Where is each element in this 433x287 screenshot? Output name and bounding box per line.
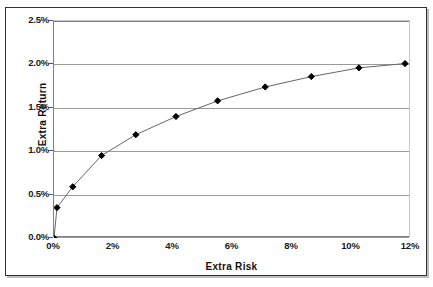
data-point-marker: [356, 65, 362, 71]
y-tick-mark: [49, 107, 53, 108]
y-axis-title: Extra Return: [37, 35, 48, 195]
data-point-marker: [308, 73, 314, 79]
y-tick-label: 2.5%: [3, 14, 49, 25]
plot-area: [53, 20, 410, 237]
data-point-marker: [133, 132, 139, 138]
y-tick-mark: [49, 20, 53, 21]
data-point-marker: [173, 113, 179, 119]
y-axis-title-wrapper: Extra Return: [22, 0, 23, 287]
series-line: [54, 64, 405, 239]
x-axis-title: Extra Risk: [53, 261, 410, 272]
chart-body: 0.0%0.5%1.0%1.5%2.0%2.5% Extra Return 0%…: [0, 0, 433, 287]
data-series-svg: [54, 21, 411, 238]
y-tick-mark: [49, 237, 53, 238]
x-tick-label: 2%: [93, 240, 133, 251]
x-tick-label: 6%: [212, 240, 252, 251]
x-tick-label: 8%: [271, 240, 311, 251]
x-tick-label: 12%: [390, 240, 430, 251]
y-tick-mark: [49, 63, 53, 64]
x-tick-label: 4%: [152, 240, 192, 251]
data-point-marker: [54, 235, 57, 238]
data-point-marker: [215, 98, 221, 104]
chart-figure: 0.0%0.5%1.0%1.5%2.0%2.5% Extra Return 0%…: [0, 0, 433, 287]
y-tick-mark: [49, 194, 53, 195]
data-point-marker: [402, 60, 408, 66]
x-tick-label: 0%: [33, 240, 73, 251]
series-markers: [54, 60, 408, 238]
data-point-marker: [262, 84, 268, 90]
y-tick-mark: [49, 150, 53, 151]
x-tick-label: 10%: [331, 240, 371, 251]
